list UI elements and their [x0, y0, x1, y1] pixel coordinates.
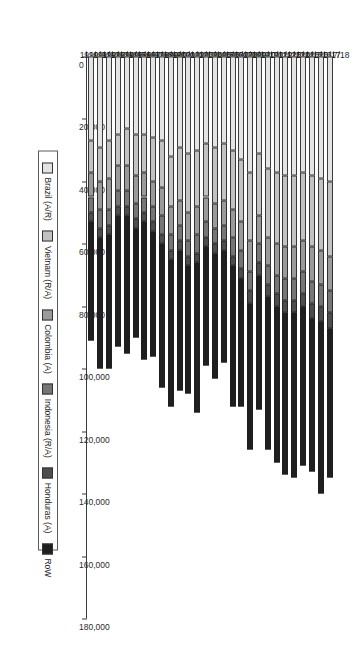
- bar-segment: [88, 212, 94, 221]
- chart-legend: Brazil (A/R)Vietnam (R/A)Colombia (A)Ind…: [38, 150, 58, 550]
- bar-segment: [300, 172, 306, 241]
- bar-segment: [300, 306, 306, 465]
- bar-segment: [309, 246, 315, 280]
- bar-segment: [238, 159, 244, 221]
- bar-segment: [106, 225, 112, 234]
- bar-segment: [159, 215, 165, 234]
- bar-segment: [150, 206, 156, 222]
- legend-label: Brazil (A/R): [44, 177, 53, 220]
- value-tick-label: 160,000: [79, 560, 110, 569]
- value-tick-label: 100,000: [79, 372, 110, 381]
- bar-segment: [150, 56, 156, 137]
- legend-item[interactable]: Vietnam (R/A): [43, 230, 54, 298]
- bar-segment: [300, 293, 306, 305]
- bar-segment: [221, 225, 227, 241]
- bar-segment: [203, 56, 209, 143]
- bar-segment: [282, 278, 288, 300]
- legend-item[interactable]: Brazil (A/R): [43, 162, 54, 220]
- bar-segment: [291, 246, 297, 277]
- bar-segment: [203, 197, 209, 222]
- bar-segment: [212, 203, 218, 228]
- bar-segment: [327, 181, 333, 256]
- legend-item[interactable]: Honduras (A): [43, 467, 54, 533]
- bar-segment: [106, 140, 112, 177]
- bar-segment: [221, 56, 227, 143]
- bar-segment: [168, 206, 174, 234]
- bar-segment: [168, 234, 174, 250]
- bar-segment: [300, 271, 306, 293]
- bar-segment: [133, 203, 139, 219]
- bar-segment: [291, 175, 297, 247]
- value-tick-label: 140,000: [79, 497, 110, 506]
- bar-segment: [230, 256, 236, 265]
- bar-segment: [274, 56, 280, 172]
- bar-segment: [274, 275, 280, 294]
- chart-screenshot: 020,00040,00060,00080,000100,000120,0001…: [0, 0, 358, 667]
- bar-segment: [185, 56, 191, 153]
- bar-segment: [309, 56, 315, 175]
- bar-segment: [124, 165, 130, 190]
- bar-segment: [247, 240, 253, 271]
- legend-swatch-icon: [43, 309, 54, 320]
- bar-segment: [247, 56, 253, 172]
- bar-segment: [124, 215, 130, 352]
- bar-segment: [247, 172, 253, 241]
- bar-segment: [203, 143, 209, 196]
- bar-segment: [282, 246, 288, 277]
- bar-segment: [115, 134, 121, 165]
- bar-segment: [141, 212, 147, 221]
- bar-segment: [150, 181, 156, 206]
- legend-swatch-icon: [43, 230, 54, 241]
- bar-segment: [203, 221, 209, 237]
- bar-segment: [159, 140, 165, 187]
- bar-segment: [238, 278, 244, 406]
- legend-label: Honduras (A): [44, 482, 53, 533]
- bar-segment: [230, 265, 236, 406]
- bar-segment: [300, 240, 306, 271]
- bar-segment: [221, 240, 227, 249]
- value-tick: [82, 118, 87, 119]
- bar-segment: [133, 175, 139, 203]
- bar-segment: [159, 56, 165, 140]
- bar-segment: [274, 172, 280, 244]
- bar-segment: [247, 303, 253, 450]
- value-tick: [82, 243, 87, 244]
- bar-segment: [115, 215, 121, 346]
- rotated-figure-wrapper: 020,00040,00060,00080,000100,000120,0001…: [0, 0, 358, 667]
- bar-segment: [168, 156, 174, 206]
- bar-segment: [133, 134, 139, 175]
- bar-segment: [97, 228, 103, 237]
- bar-segment: [115, 190, 121, 206]
- bar-segment: [318, 306, 324, 322]
- value-tick-label: 0: [79, 60, 84, 69]
- bar-segment: [185, 265, 191, 393]
- bar-segment: [212, 243, 218, 252]
- bar-segment: [106, 209, 112, 225]
- legend-label: Vietnam (R/A): [44, 245, 53, 298]
- bar-segment: [133, 218, 139, 227]
- bar-segment: [106, 56, 112, 140]
- bar-segment: [141, 172, 147, 197]
- bar-segment: [185, 212, 191, 240]
- bar-segment: [327, 56, 333, 181]
- bar-segment: [97, 147, 103, 181]
- bar-segment: [230, 237, 236, 256]
- bar-segment: [150, 221, 156, 230]
- bar-segment: [159, 234, 165, 243]
- legend-item[interactable]: Colombia (A): [43, 309, 54, 374]
- legend-item[interactable]: Indonesia (R/A): [43, 383, 54, 457]
- value-tick: [82, 306, 87, 307]
- bar-segment: [194, 206, 200, 234]
- bar-segment: [124, 206, 130, 215]
- bar-segment: [309, 175, 315, 247]
- bar-segment: [177, 147, 183, 200]
- bar-segment: [327, 312, 333, 328]
- bar-segment: [212, 147, 218, 203]
- bar-segment: [274, 243, 280, 274]
- value-tick: [82, 181, 87, 182]
- bar-segment: [159, 243, 165, 387]
- stacked-bar-chart: 020,00040,00060,00080,000100,000120,0001…: [0, 0, 358, 667]
- legend-item[interactable]: RoW: [43, 543, 54, 577]
- bar-segment: [141, 221, 147, 358]
- bar-segment: [318, 284, 324, 306]
